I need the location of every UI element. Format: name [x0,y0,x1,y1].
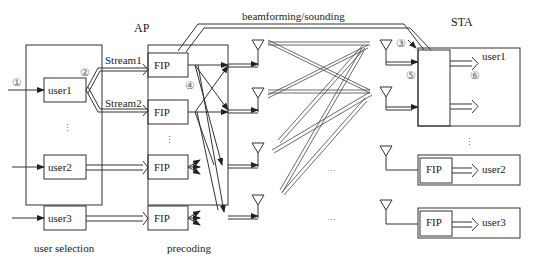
feedback-label: beamforming/sounding [242,11,345,22]
fip-4: FIP [154,213,170,224]
channel-ellipsis-2: ··· [327,215,336,224]
users-ellipsis: ⋮ [63,124,72,133]
marker-4: ④ [185,80,195,91]
sta-user2-label: user2 [482,164,506,175]
ap-title: AP [134,22,149,34]
stream2-label: Stream2 [105,98,142,109]
user-selection-caption: user selection [34,243,94,254]
sta-fip-2: FIP [426,164,442,175]
marker-5: ⑤ [406,70,416,81]
fip-1: FIP [154,60,170,71]
sta-user3-label: user3 [482,217,506,228]
marker-2: ② [80,67,90,78]
precoding-ellipsis: ⋮ [165,136,174,145]
channel-ellipsis-1: ··· [327,166,336,175]
sta-user1-label: user1 [482,51,506,62]
marker-3: ③ [396,38,406,49]
marker-1: ① [12,77,22,88]
marker-6: ⑥ [470,70,480,81]
sta-ellipsis: ⋮ [465,138,474,147]
sta-title: STA [451,16,473,28]
sta-fip-3: FIP [426,217,442,228]
fip-3: FIP [154,162,170,173]
fip-2: FIP [154,107,170,118]
stream1-label: Stream1 [105,55,142,66]
diagram-canvas [0,0,533,259]
user1-label: user1 [48,85,72,96]
user2-label: user2 [48,162,72,173]
user3-label: user3 [48,213,72,224]
precoding-caption: precoding [167,243,211,254]
